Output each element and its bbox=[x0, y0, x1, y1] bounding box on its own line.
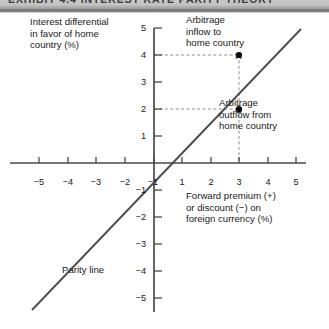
x-tick-label: −1 bbox=[143, 177, 163, 187]
arbitrage-outflow-label: Arbitrage outflow from home country bbox=[219, 97, 277, 132]
exhibit-title: EXHIBIT 4.4 INTEREST RATE PARITY THEORY bbox=[8, 0, 274, 5]
exhibit-figure: EXHIBIT 4.4 INTEREST RATE PARITY THEORY bbox=[0, 0, 329, 329]
y-tick-label: 5 bbox=[127, 23, 146, 33]
y-tick-label: −1 bbox=[127, 185, 146, 195]
x-tick-label: 1 bbox=[172, 177, 192, 187]
x-axis-description: Forward premium (+) or discount (−) on f… bbox=[186, 190, 276, 225]
arbitrage-inflow-label: Arbitrage inflow to home country bbox=[186, 14, 244, 49]
parity-line-label: Parity line bbox=[62, 264, 104, 276]
y-tick-label: 2 bbox=[127, 104, 146, 114]
y-tick-label: −2 bbox=[127, 212, 146, 222]
y-tick-label: 4 bbox=[127, 50, 146, 60]
y-tick-label: 3 bbox=[127, 77, 146, 87]
x-tick-label: 5 bbox=[286, 177, 306, 187]
x-tick-label: 3 bbox=[229, 177, 249, 187]
y-tick-label: −4 bbox=[127, 266, 146, 276]
point-h-label: H bbox=[235, 50, 242, 61]
x-tick-label: −3 bbox=[86, 177, 106, 187]
y-tick-label: 1 bbox=[127, 131, 146, 141]
x-tick-label: −4 bbox=[58, 177, 78, 187]
parity-plot bbox=[0, 13, 329, 329]
point-g-label: G bbox=[235, 104, 242, 115]
x-tick-label: 4 bbox=[258, 177, 278, 187]
y-tick-label: −3 bbox=[127, 239, 146, 249]
y-axis-description: Interest differential in favor of home c… bbox=[30, 16, 109, 51]
y-tick-label: −5 bbox=[127, 293, 146, 303]
x-tick-marks bbox=[39, 157, 296, 163]
x-tick-label: −5 bbox=[29, 177, 49, 187]
exhibit-title-bar: EXHIBIT 4.4 INTEREST RATE PARITY THEORY bbox=[0, 0, 329, 9]
x-tick-label: 2 bbox=[201, 177, 221, 187]
